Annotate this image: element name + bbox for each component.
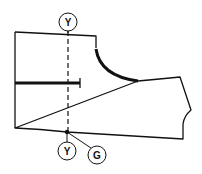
marker-bottom-y: Y	[58, 142, 76, 160]
marker-g-label: G	[93, 150, 101, 161]
marker-top-y-label: Y	[65, 17, 72, 28]
pattern-piece-outline	[15, 32, 191, 139]
marker-top-y: Y	[59, 13, 77, 31]
armhole-curve	[96, 49, 138, 81]
marker-g: G	[88, 146, 106, 164]
marker-bottom-y-label: Y	[64, 146, 71, 157]
pattern-diagram: Y Y G	[0, 0, 202, 174]
